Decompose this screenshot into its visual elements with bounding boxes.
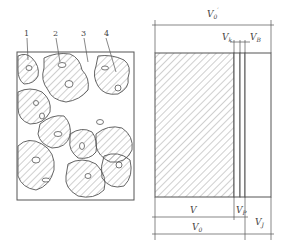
open-pore-strip [240,53,245,197]
dim-label-void: VJ [255,217,265,229]
diagram-canvas: 1 2 3 4 V0′ Vk [0,0,289,245]
dim-label-open-pore: VB [250,32,262,43]
dim-label-closed-pore: Vk [222,32,233,43]
dim-label-solid: V [190,205,198,215]
aggregate-structure-figure: 1 2 3 4 [17,29,134,200]
callout-1: 1 [24,29,29,38]
volume-composition-figure: V0′ Vk VB V VP V0 VJ [152,6,274,240]
dim-label-bulk: V0 [192,222,203,233]
dim-label-pore: VP [236,205,248,216]
dim-label-total: V0′ [207,6,219,20]
callout-2: 2 [53,29,58,38]
callout-3: 3 [81,29,86,38]
callout-4: 4 [104,29,109,38]
void-strip [245,53,271,197]
closed-pore-strip [234,53,240,197]
solid-volume-block [155,53,234,197]
